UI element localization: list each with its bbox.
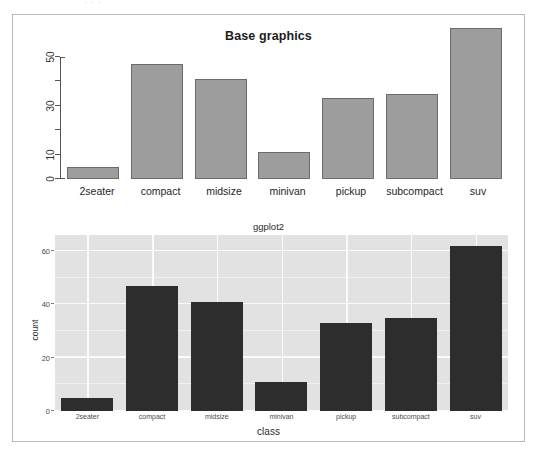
ggplot2-x-axis-title: class: [13, 426, 524, 437]
ggplot2-x-tick-label: suv: [448, 413, 504, 420]
base-graphics-bar: [131, 64, 183, 179]
ggplot2-y-tick-label: 20: [42, 353, 50, 362]
ggplot2-x-tick-label: midsize: [189, 413, 245, 420]
ggplot2-y-axis-title: count: [30, 320, 40, 341]
ggplot2-x-axis-labels: 2seatercompactmidsizeminivanpickupsubcom…: [55, 413, 508, 420]
ggplot2-x-tick-label: pickup: [318, 413, 374, 420]
figure-frame: Base graphics 0103050 2seatercompactmids…: [12, 14, 525, 442]
ggplot2-bar: [385, 318, 437, 411]
base-graphics-x-label: 2seater: [67, 185, 127, 197]
base-graphics-bar: [258, 152, 310, 179]
base-graphics-bar: [322, 98, 374, 179]
ggplot2-chart: ggplot2 count 0204060 2seatercompactmids…: [13, 219, 524, 441]
base-graphics-x-label: subcompact: [385, 185, 445, 197]
ggplot2-bar: [191, 302, 243, 411]
base-graphics-tick-label: 30: [46, 100, 56, 111]
ggplot2-bar: [61, 398, 113, 411]
base-graphics-x-label: compact: [131, 185, 191, 197]
base-graphics-x-label: minivan: [258, 185, 318, 197]
ggplot2-bar: [126, 286, 178, 411]
ggplot2-x-tick-label: 2seater: [59, 413, 115, 420]
base-graphics-tick-label: 50: [46, 51, 56, 62]
base-graphics-plot-area: 0103050: [60, 57, 508, 179]
ggplot2-x-tick-label: subcompact: [383, 413, 439, 420]
scan-top-text-fragment: · · ·: [0, 0, 539, 11]
ggplot2-y-tick-label: 60: [42, 247, 50, 256]
base-graphics-bar: [386, 94, 438, 179]
ggplot2-bar: [320, 323, 372, 411]
base-graphics-x-label: pickup: [321, 185, 381, 197]
ggplot2-bars: [55, 235, 508, 411]
ggplot2-bar: [255, 382, 307, 411]
ggplot2-x-tick-label: compact: [124, 413, 180, 420]
base-graphics-tick-mark: [55, 129, 60, 130]
ggplot2-bar: [450, 246, 502, 411]
base-graphics-x-label: midsize: [194, 185, 254, 197]
base-graphics-tick-label: 0: [46, 176, 56, 182]
ggplot2-y-tick-mark: [51, 357, 54, 358]
base-graphics-chart: Base graphics 0103050 2seatercompactmids…: [13, 15, 524, 219]
base-graphics-x-label: suv: [448, 185, 508, 197]
base-graphics-bar: [450, 28, 502, 179]
ggplot2-y-tick-label: 0: [46, 407, 50, 416]
ggplot2-panel: 0204060: [55, 235, 508, 411]
base-graphics-tick-mark: [55, 80, 60, 81]
ggplot2-y-tick-mark: [51, 410, 54, 411]
ggplot2-x-tick-label: minivan: [253, 413, 309, 420]
ggplot2-y-tick-mark: [51, 250, 54, 251]
base-graphics-tick-label: 10: [46, 149, 56, 160]
ggplot2-title: ggplot2: [13, 221, 524, 232]
ggplot2-y-tick-label: 40: [42, 300, 50, 309]
base-graphics-bars: [67, 31, 502, 179]
base-graphics-bar: [67, 167, 119, 179]
ggplot2-y-tick-mark: [51, 303, 54, 304]
base-graphics-y-axis-line: [60, 57, 61, 179]
base-graphics-x-axis-labels: 2seatercompactmidsizeminivanpickupsubcom…: [67, 185, 508, 197]
base-graphics-bar: [195, 79, 247, 179]
